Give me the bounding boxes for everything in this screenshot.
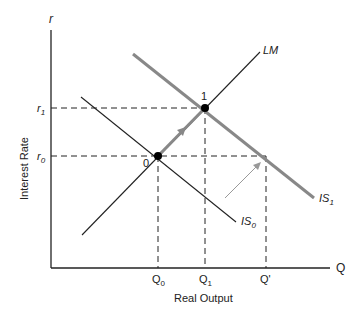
point-1-label: 1 bbox=[201, 90, 207, 102]
islm-diagram: r Q Interest Rate Real Output r1 r0 Q0 Q… bbox=[0, 0, 363, 320]
x-axis-symbol: Q bbox=[336, 261, 345, 275]
is1-label: IS1 bbox=[319, 192, 334, 207]
axes bbox=[51, 30, 330, 268]
guide-lines bbox=[51, 108, 266, 268]
y-axis-label: Interest Rate bbox=[18, 137, 30, 200]
q1-tick-label: Q1 bbox=[199, 273, 213, 288]
y-axis-symbol: r bbox=[49, 12, 54, 26]
shift-arrow bbox=[225, 165, 258, 198]
q0-tick-label: Q0 bbox=[152, 273, 166, 288]
qprime-tick-label: Q' bbox=[260, 273, 271, 285]
equilibrium-point-1 bbox=[201, 104, 209, 112]
point-0-label: 0 bbox=[143, 157, 149, 169]
x-axis-label: Real Output bbox=[174, 292, 233, 304]
r0-tick-label: r0 bbox=[37, 150, 46, 165]
is1-curve bbox=[133, 54, 314, 198]
equilibrium-point-0 bbox=[154, 152, 162, 160]
is0-label: IS0 bbox=[241, 215, 256, 230]
r1-tick-label: r1 bbox=[37, 102, 45, 117]
lm-label: LM bbox=[263, 44, 279, 56]
